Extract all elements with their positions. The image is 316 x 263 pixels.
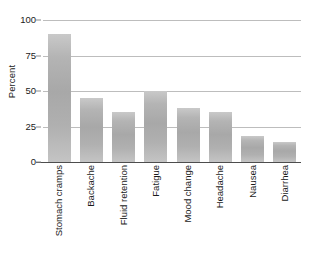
x-axis-tick-label: Mood change (177, 165, 200, 261)
y-axis-tick-label: 75 (14, 51, 36, 61)
bar (144, 91, 167, 162)
x-axis-tick-label-text: Fluid retention (119, 165, 129, 225)
bar (273, 142, 296, 162)
y-axis-tick-label: 100 (14, 15, 36, 25)
bar (112, 112, 135, 162)
bar (177, 108, 200, 162)
x-axis-tick-label-text: Backache (87, 165, 97, 207)
bar (80, 98, 103, 162)
bar (48, 34, 71, 162)
x-axis-tick-label-text: Fatigue (151, 165, 161, 197)
x-axis-tick-label: Fluid retention (112, 165, 135, 261)
x-axis-tick-label-text: Diarrhea (280, 165, 290, 201)
x-axis-tick-label-text: Mood change (183, 165, 193, 223)
bars-group (43, 20, 301, 162)
x-axis-tick-label: Backache (80, 165, 103, 261)
x-axis-tick-label: Diarrhea (273, 165, 296, 261)
x-axis-tick-label-text: Stomach cramps (54, 165, 64, 236)
x-axis-tick-label: Stomach cramps (48, 165, 71, 261)
x-axis-tick-labels: Stomach crampsBackacheFluid retentionFat… (43, 165, 301, 261)
y-axis-tick-label: 25 (14, 122, 36, 132)
bar (209, 112, 232, 162)
y-axis-tick-mark (36, 91, 41, 92)
y-axis-tick-label: 0 (14, 157, 36, 167)
x-axis-tick-label-text: Headache (216, 165, 226, 208)
y-axis-tick-mark (36, 126, 41, 127)
y-axis-tick-mark (36, 55, 41, 56)
bar (241, 136, 264, 162)
y-axis-tick-mark (36, 20, 41, 21)
x-axis-tick-label: Nausea (241, 165, 264, 261)
y-axis-tick-mark (36, 162, 41, 163)
x-axis-tick-label: Fatigue (144, 165, 167, 261)
y-axis-tick-label: 50 (14, 86, 36, 96)
x-axis-line (36, 162, 301, 163)
y-axis-tick-labels: 0255075100 (0, 0, 36, 180)
bar-chart-figure: Percent 0255075100 Stomach crampsBackach… (0, 0, 316, 263)
x-axis-tick-label-text: Nausea (248, 165, 258, 198)
x-axis-tick-label: Headache (209, 165, 232, 261)
